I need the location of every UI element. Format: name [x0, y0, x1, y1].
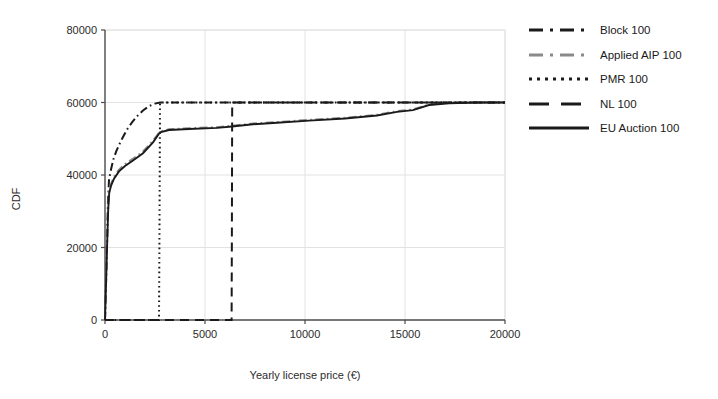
legend-swatch-icon	[528, 73, 590, 85]
x-axis-label: Yearly license price (€)	[250, 369, 361, 381]
y-tick-label: 0	[40, 314, 97, 326]
x-tick-label: 15000	[390, 328, 421, 340]
y-tick-label: 40000	[40, 169, 97, 181]
x-tick-label: 20000	[490, 328, 521, 340]
legend-item-pmr-100[interactable]: PMR 100	[528, 67, 714, 92]
legend-item-applied-aip-100[interactable]: Applied AIP 100	[528, 43, 714, 68]
y-tick-label: 80000	[40, 24, 97, 36]
legend-item-eu-auction-100[interactable]: EU Auction 100	[528, 116, 714, 141]
legend-label: EU Auction 100	[600, 122, 679, 134]
chart-legend: Block 100Applied AIP 100PMR 100NL 100EU …	[528, 18, 714, 141]
legend-label: NL 100	[600, 98, 637, 110]
x-tick-label: 10000	[290, 328, 321, 340]
legend-label: PMR 100	[600, 73, 648, 85]
x-tick-label: 5000	[193, 328, 217, 340]
y-axis-label: CDF	[10, 188, 22, 211]
legend-item-block-100[interactable]: Block 100	[528, 18, 714, 43]
legend-swatch-icon	[528, 122, 590, 134]
chart-figure: CDF Yearly license price (€) 02000040000…	[0, 0, 718, 399]
y-tick-label: 20000	[40, 242, 97, 254]
legend-swatch-icon	[528, 24, 590, 36]
legend-item-nl-100[interactable]: NL 100	[528, 92, 714, 117]
y-tick-label: 60000	[40, 97, 97, 109]
legend-label: Block 100	[600, 24, 651, 36]
grid-lines	[105, 30, 505, 320]
x-tick-label: 0	[102, 328, 108, 340]
legend-label: Applied AIP 100	[600, 49, 682, 61]
legend-swatch-icon	[528, 49, 590, 61]
legend-swatch-icon	[528, 98, 590, 110]
